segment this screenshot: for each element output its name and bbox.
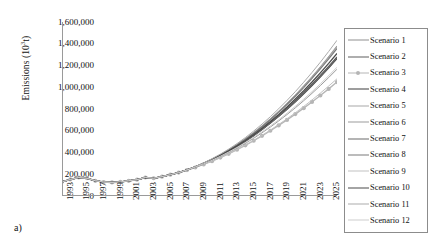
legend-label: Scenario 6 — [370, 118, 406, 127]
series-line — [62, 58, 337, 183]
legend-label: Scenario 10 — [370, 183, 410, 192]
legend-swatch-icon — [348, 199, 369, 209]
legend-swatch-icon — [348, 183, 369, 193]
legend-item[interactable]: Scenario 5 — [348, 98, 425, 114]
x-tick-label: 2017 — [266, 182, 275, 200]
series-line — [62, 40, 337, 182]
series-line — [62, 54, 337, 183]
x-tick-label: 1999 — [116, 182, 125, 200]
legend-swatch-icon — [348, 117, 369, 127]
series-line — [62, 67, 337, 182]
legend-box[interactable]: Scenario 1Scenario 2Scenario 3Scenario 4… — [344, 28, 428, 233]
legend-label: Scenario 7 — [370, 134, 406, 143]
legend-label: Scenario 5 — [370, 101, 406, 110]
legend-label: Scenario 12 — [370, 216, 410, 225]
y-axis-line — [62, 22, 63, 196]
legend-label: Scenario 2 — [370, 52, 406, 61]
x-tick-label: 2019 — [282, 182, 291, 200]
y-axis-title-exponent: 3 — [19, 42, 26, 45]
legend-label: Scenario 8 — [370, 150, 406, 159]
legend-item[interactable]: Scenario 9 — [348, 163, 425, 179]
x-tick-label: 2013 — [232, 182, 241, 200]
legend-swatch-icon — [348, 150, 369, 160]
x-tick-label: 2021 — [299, 182, 308, 200]
legend-item[interactable]: Scenario 6 — [348, 114, 425, 130]
legend-item[interactable]: Scenario 7 — [348, 130, 425, 146]
x-tick-label: 1995 — [82, 182, 91, 200]
legend-swatch-icon — [348, 52, 369, 62]
x-tick-label: 2001 — [132, 182, 141, 200]
legend-item[interactable]: Scenario 3 — [348, 65, 425, 81]
legend-item[interactable]: Scenario 11 — [348, 196, 425, 212]
x-tick-label: 2025 — [332, 182, 341, 200]
legend-item[interactable]: Scenario 8 — [348, 147, 425, 163]
series-line — [62, 58, 337, 182]
legend-swatch-icon — [348, 101, 369, 111]
x-tick-label: 2003 — [149, 182, 158, 200]
legend-swatch-icon — [348, 84, 369, 94]
legend-swatch-icon — [348, 166, 369, 176]
legend-label: Scenario 3 — [370, 68, 406, 77]
legend-item[interactable]: Scenario 12 — [348, 212, 425, 228]
legend-swatch-icon — [348, 215, 369, 225]
y-axis-title: Emissions (103t) — [19, 3, 31, 133]
x-tick-label: 1997 — [99, 182, 108, 200]
x-tick-label: 2023 — [316, 182, 325, 200]
x-tick-label: 1993 — [66, 182, 75, 200]
legend-item[interactable]: Scenario 2 — [348, 48, 425, 64]
x-tick-label: 2009 — [199, 182, 208, 200]
legend-item[interactable]: Scenario 10 — [348, 180, 425, 196]
subfigure-label: a) — [14, 222, 22, 233]
figure-panel: Emissions (103t) 1,600,0001,400,0001,200… — [0, 0, 434, 250]
legend-item[interactable]: Scenario 1 — [348, 32, 425, 48]
legend-label: Scenario 1 — [370, 36, 406, 45]
series-line — [62, 57, 337, 182]
legend-swatch-icon — [348, 68, 369, 78]
x-tick-label: 2005 — [166, 182, 175, 200]
plot-area — [62, 22, 337, 196]
y-axis-title-main: Emissions (10 — [21, 45, 31, 100]
legend-swatch-icon — [348, 134, 369, 144]
legend-swatch-icon — [348, 35, 369, 45]
series-canvas — [62, 22, 337, 196]
x-tick-label: 2011 — [216, 182, 225, 200]
y-axis-title-tail: t) — [21, 36, 31, 42]
legend-label: Scenario 4 — [370, 85, 406, 94]
legend-item[interactable]: Scenario 4 — [348, 81, 425, 97]
x-tick-label: 2007 — [182, 182, 191, 200]
legend-label: Scenario 9 — [370, 167, 406, 176]
legend-label: Scenario 11 — [370, 200, 409, 209]
series-line — [62, 82, 337, 182]
x-tick-label: 2015 — [249, 182, 258, 200]
